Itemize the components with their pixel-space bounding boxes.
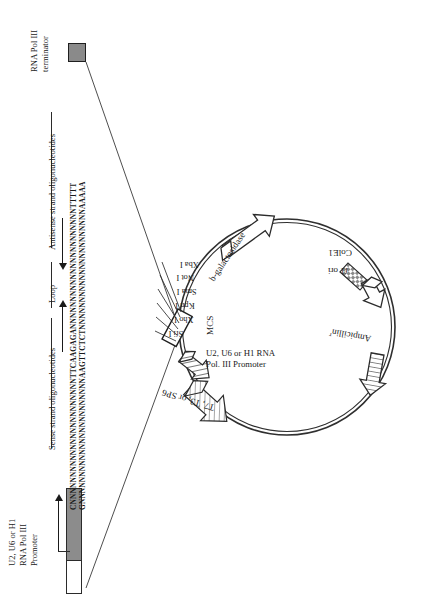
restriction-site-Xba-I: Xba I: [180, 259, 199, 268]
restriction-site-Xho-I: Xho I: [174, 314, 193, 323]
restriction-site-Sfi-I: Sfi I: [169, 328, 184, 337]
restriction-site-Kpn-I: Kpn I: [175, 300, 194, 309]
label-MCS: MCS: [206, 316, 215, 335]
figure-canvas: CNNNNNNNNNNNNNNNNNNNNNNNTTCAAGAGANNNNNNN…: [0, 0, 424, 607]
label-ColE1: ColE1: [329, 248, 352, 257]
label-pol-III-promoter-line2: Pol. III Promoter: [206, 359, 266, 369]
feature-Ampicillin-resistance: [358, 352, 391, 398]
label-pol-III-promoter-line1: U2, U6 or H1 RNA: [206, 348, 275, 358]
label-f1-ori: f1 ori: [328, 266, 348, 275]
plasmid-map: [0, 0, 424, 607]
restriction-site-Sma-I: Sma I: [177, 286, 197, 295]
restriction-site-Not-I: Not I: [176, 272, 193, 281]
